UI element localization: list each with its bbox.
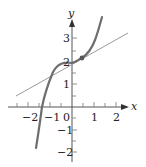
y-tick-label: 2 [63,56,70,69]
x-ticks [17,102,116,107]
y-tick-label: −2 [57,146,73,159]
tangency-point [80,56,85,61]
y-axis-label: y [67,7,75,20]
x-axis-label: x [131,100,138,113]
y-axis-arrow-icon [69,19,75,27]
y-tick-label: −1 [57,124,73,137]
x-tick-label: 1 [91,111,98,124]
x-tick-label: 2 [113,111,120,124]
x-axis-arrow-icon [121,104,129,110]
y-tick-label: 1 [63,78,70,91]
chart-canvas: −2 −1 0 1 2 3 2 1 −1 −2 x y [0,0,146,167]
x-tick-label: −2 [22,111,38,124]
x-tick-label: 0 [63,111,70,124]
chart: −2 −1 0 1 2 3 2 1 −1 −2 x y [0,0,146,167]
x-tick-label: −1 [44,111,60,124]
y-tick-label: 3 [63,32,70,45]
